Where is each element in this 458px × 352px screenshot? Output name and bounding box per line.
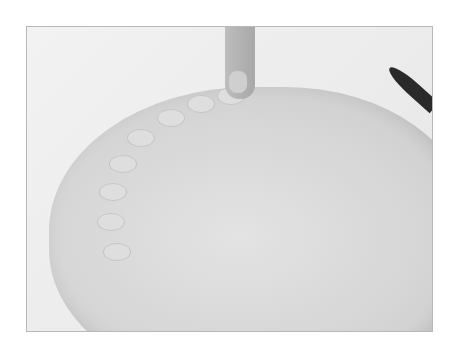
crimp xyxy=(109,155,137,173)
crimp xyxy=(97,213,125,231)
crimp xyxy=(127,129,155,147)
crimp xyxy=(187,95,215,113)
photo-frame xyxy=(26,26,433,332)
crimp xyxy=(99,183,127,201)
finger xyxy=(225,27,255,99)
crimp xyxy=(157,109,185,127)
fingernail xyxy=(229,71,247,93)
crimp xyxy=(103,243,131,261)
pie-crust-dough xyxy=(49,87,433,332)
